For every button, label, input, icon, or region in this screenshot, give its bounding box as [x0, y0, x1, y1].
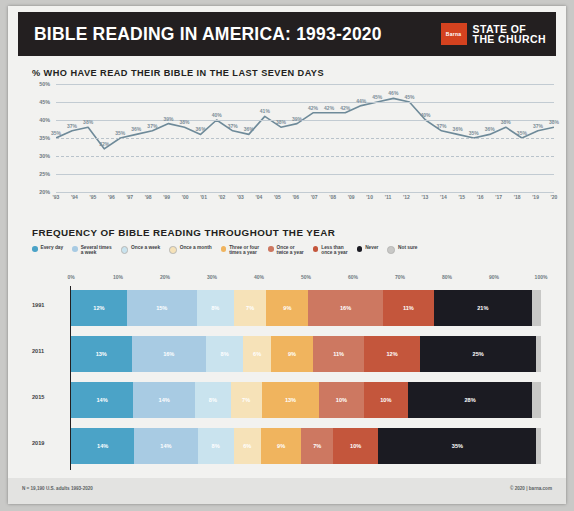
- bar-segment[interactable]: [532, 290, 541, 326]
- bar-segment[interactable]: 13%: [71, 336, 132, 372]
- bar-segment[interactable]: 8%: [198, 428, 234, 464]
- line-point-label: 41%: [260, 108, 270, 114]
- bar-segment[interactable]: 25%: [420, 336, 536, 372]
- legend-label: Once a month: [180, 245, 212, 250]
- footer-bar: N = 19,190 U.S. adults 1993-2020 © 2020 …: [8, 478, 566, 504]
- bar-segment[interactable]: 9%: [261, 428, 302, 464]
- bar-segment[interactable]: 6%: [243, 336, 271, 372]
- bar-segment[interactable]: [532, 382, 541, 418]
- bar-segment[interactable]: 14%: [71, 428, 134, 464]
- brand-lockup: Barna STATE OF THE CHURCH: [441, 23, 546, 45]
- legend-item[interactable]: Every day: [32, 245, 63, 255]
- legend-item[interactable]: Not sure: [387, 245, 417, 255]
- bar-segment[interactable]: 13%: [262, 382, 320, 418]
- barna-logo-icon: Barna: [441, 23, 467, 45]
- bar-segment[interactable]: 12%: [364, 336, 420, 372]
- bar-segment[interactable]: 7%: [231, 382, 262, 418]
- line-point-label: 35%: [469, 130, 479, 136]
- line-y-tick: 25%: [32, 171, 50, 177]
- bar-segment[interactable]: 14%: [133, 382, 195, 418]
- line-x-tick: '02: [219, 194, 226, 200]
- line-x-tick: '20: [551, 194, 558, 200]
- bar-segment[interactable]: 14%: [71, 382, 133, 418]
- line-point-label: 42%: [308, 105, 318, 111]
- line-x-tick: '10: [366, 194, 373, 200]
- line-point-label: 36%: [485, 126, 495, 132]
- bar-segment[interactable]: [536, 336, 541, 372]
- legend-item[interactable]: Less than once a year: [313, 245, 348, 255]
- line-point-label: 38%: [276, 119, 286, 125]
- bar-row: 199112%15%8%7%9%16%11%21%: [32, 286, 554, 328]
- line-point-label: 46%: [388, 90, 398, 96]
- line-point-label: 38%: [501, 119, 511, 125]
- bar-x-tick: 50%: [301, 274, 311, 280]
- line-point-label: 45%: [404, 94, 414, 100]
- bar-segment[interactable]: 7%: [234, 290, 267, 326]
- bar-segment[interactable]: 21%: [434, 290, 532, 326]
- bar-segment[interactable]: 16%: [308, 290, 382, 326]
- line-gridline: [56, 120, 554, 121]
- bar-segment[interactable]: 8%: [195, 382, 230, 418]
- bar-segment[interactable]: 10%: [364, 382, 408, 418]
- legend-item[interactable]: Once or twice a year: [268, 245, 304, 255]
- bar-x-tick: 60%: [348, 274, 358, 280]
- legend-item[interactable]: Several times a week: [72, 245, 111, 255]
- bar-segment[interactable]: 28%: [408, 382, 532, 418]
- bar-x-tick: 90%: [489, 274, 499, 280]
- bar-segment[interactable]: 35%: [378, 428, 536, 464]
- brand-line-2: THE CHURCH: [473, 34, 546, 45]
- bar-segment[interactable]: 14%: [134, 428, 197, 464]
- bar-segment[interactable]: 11%: [313, 336, 364, 372]
- bar-x-tick: 20%: [160, 274, 170, 280]
- bar-segment[interactable]: [536, 428, 541, 464]
- line-gridline: [56, 138, 554, 139]
- legend-item[interactable]: Never: [357, 245, 379, 255]
- line-x-tick: '07: [311, 194, 318, 200]
- line-point-label: 38%: [180, 119, 190, 125]
- bar-segment[interactable]: 7%: [301, 428, 333, 464]
- header-bar: BIBLE READING IN AMERICA: 1993-2020 Barn…: [18, 12, 556, 56]
- line-x-tick: '05: [274, 194, 281, 200]
- legend-item[interactable]: Three or four times a year: [221, 245, 259, 255]
- legend-item[interactable]: Once a month: [169, 245, 211, 255]
- legend-label: Never: [365, 245, 378, 250]
- line-chart: 50%45%40%35%30%25%20% 35%37%38%32%35%36%…: [32, 84, 554, 204]
- legend-label: Every day: [41, 245, 64, 250]
- bar-row: 201113%16%8%6%9%11%12%25%: [32, 332, 554, 374]
- line-chart-x-axis: '93'94'95'96'97'98'99'00'01'02'03'04'05'…: [56, 194, 554, 204]
- legend-label: Several times a week: [81, 245, 112, 255]
- bar-segment[interactable]: 9%: [271, 336, 313, 372]
- bar-segment[interactable]: 6%: [234, 428, 261, 464]
- line-x-tick: '06: [292, 194, 299, 200]
- line-x-tick: '17: [495, 194, 502, 200]
- line-point-label: 38%: [83, 119, 93, 125]
- bar-segment[interactable]: 16%: [132, 336, 206, 372]
- bar-segment[interactable]: 11%: [383, 290, 434, 326]
- line-point-label: 35%: [115, 130, 125, 136]
- line-y-tick: 45%: [32, 99, 50, 105]
- line-point-label: 39%: [292, 116, 302, 122]
- line-y-tick: 30%: [32, 153, 50, 159]
- bar-segment[interactable]: 8%: [206, 336, 243, 372]
- bar-chart-rows: 199112%15%8%7%9%16%11%21%201113%16%8%6%9…: [32, 286, 554, 470]
- line-gridline: [56, 174, 554, 175]
- legend-label: Not sure: [398, 245, 417, 250]
- line-point-label: 44%: [356, 98, 366, 104]
- line-point-label: 40%: [212, 112, 222, 118]
- legend-label: Once or twice a year: [277, 245, 304, 255]
- bar-segment[interactable]: 8%: [197, 290, 234, 326]
- bar-segment[interactable]: 10%: [319, 382, 363, 418]
- legend-item[interactable]: Once a week: [121, 245, 161, 255]
- bar-chart-x-scale: 0%10%20%30%40%50%60%70%80%90%100%: [71, 274, 541, 284]
- line-y-tick: 20%: [32, 189, 50, 195]
- line-point-label: 45%: [372, 94, 382, 100]
- infographic-poster: BIBLE READING IN AMERICA: 1993-2020 Barn…: [8, 6, 566, 504]
- bar-segment[interactable]: 15%: [127, 290, 197, 326]
- bar-x-tick: 0%: [67, 274, 74, 280]
- bar-segment[interactable]: 9%: [266, 290, 308, 326]
- line-x-tick: '18: [514, 194, 521, 200]
- bar-segment[interactable]: 12%: [71, 290, 127, 326]
- bar-x-tick: 70%: [395, 274, 405, 280]
- bar-segment[interactable]: 10%: [333, 428, 378, 464]
- line-x-tick: '97: [126, 194, 133, 200]
